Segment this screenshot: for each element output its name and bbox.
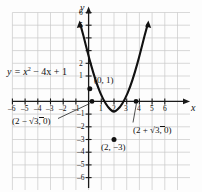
x-tick--2: –2 bbox=[59, 105, 67, 113]
radical-bar-right bbox=[160, 126, 165, 127]
radical-bar-left bbox=[39, 117, 44, 118]
y-tick--1: –1 bbox=[77, 110, 85, 118]
x-tick-3: 3 bbox=[124, 105, 128, 113]
point-y-intercept bbox=[87, 86, 92, 91]
root-left-open: (2 − √ bbox=[12, 116, 34, 126]
y-tick-6: 6 bbox=[79, 9, 83, 17]
root-left-close: , 0) bbox=[39, 116, 51, 126]
equation-label: y = x2 − 4x + 1 bbox=[7, 66, 67, 77]
x-tick-4: 4 bbox=[137, 105, 141, 113]
root-left-label: (2 − √3, 0) bbox=[12, 117, 51, 126]
point-root-left bbox=[90, 99, 95, 104]
root-right-open: (2 + √ bbox=[133, 125, 155, 135]
x-tick--3: –3 bbox=[46, 105, 54, 113]
y-tick--3: –3 bbox=[77, 136, 85, 144]
vertex-label: (2, −3) bbox=[101, 143, 126, 152]
parabola-figure: y x –6 –5 –4 –3 –2 –1 1 2 3 4 5 6 6 5 2 … bbox=[0, 0, 202, 192]
y-tick-1: 1 bbox=[79, 72, 83, 80]
root-right-close: , 0) bbox=[160, 125, 172, 135]
root-left-radicand: 3 bbox=[34, 116, 39, 126]
x-tick-1: 1 bbox=[99, 105, 103, 113]
graph-canvas bbox=[0, 0, 202, 192]
axis-lines bbox=[12, 10, 186, 188]
equation-tail: − 4x + 1 bbox=[31, 66, 67, 77]
root-right-radical: 3 bbox=[155, 125, 160, 135]
y-tick-2: 2 bbox=[79, 60, 83, 68]
root-right-label: (2 + √3, 0) bbox=[133, 126, 172, 135]
x-tick-6: 6 bbox=[163, 105, 167, 113]
root-right-radicand: 3 bbox=[155, 125, 160, 135]
leader-line-root-right bbox=[133, 104, 136, 123]
y-tick--4: –4 bbox=[77, 148, 85, 156]
y-tick-5: 5 bbox=[79, 22, 83, 30]
y-tick--2: –2 bbox=[77, 123, 85, 131]
y-tick--5: –5 bbox=[77, 161, 85, 169]
equation-lead: y = x bbox=[7, 66, 28, 77]
y-tick--6: –6 bbox=[77, 174, 85, 182]
y-intercept-label: (0, 1) bbox=[94, 76, 114, 85]
x-tick--4: –4 bbox=[34, 105, 42, 113]
x-tick-5: 5 bbox=[150, 105, 154, 113]
x-tick--5: –5 bbox=[21, 105, 29, 113]
root-left-radical: 3 bbox=[34, 116, 39, 126]
x-tick--6: –6 bbox=[8, 105, 16, 113]
x-tick-2: 2 bbox=[112, 105, 116, 113]
x-axis-arrow bbox=[183, 99, 190, 105]
x-axis-label: x bbox=[191, 103, 195, 113]
